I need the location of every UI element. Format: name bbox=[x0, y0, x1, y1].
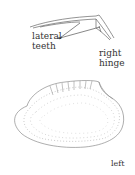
lateral-teeth-label-line1: lateral bbox=[32, 31, 62, 41]
left-valve-drawing bbox=[15, 81, 124, 148]
lateral-teeth-leaders bbox=[58, 23, 100, 39]
left-valve-label: left bbox=[111, 159, 124, 169]
shell-illustration bbox=[0, 0, 135, 175]
shell-diagram: lateral teeth right hinge left bbox=[0, 0, 135, 175]
right-hinge-label-line1: right bbox=[99, 48, 121, 58]
right-hinge-label-line2: hinge bbox=[99, 58, 125, 68]
lateral-teeth-label-line2: teeth bbox=[32, 41, 56, 51]
